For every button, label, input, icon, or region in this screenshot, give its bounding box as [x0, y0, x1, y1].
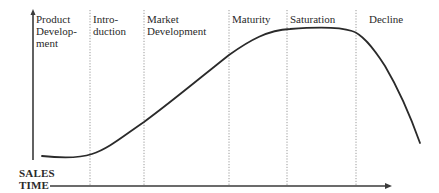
stage-label-saturation: Saturation	[290, 13, 335, 25]
stage-label-decline: Decline	[369, 13, 403, 25]
x-axis-arrow-icon	[385, 183, 392, 189]
sales-curve	[42, 28, 420, 158]
y-axis-arrow-icon	[31, 9, 36, 15]
stage-label-introduction: Intro- duction	[93, 13, 126, 37]
y-axis-label: SALES	[19, 167, 55, 179]
stage-label-product-development: Product Develop- ment	[36, 13, 77, 49]
x-axis-label: TIME	[19, 179, 49, 191]
stage-label-market-development: Market Development	[147, 13, 206, 37]
stage-dividers	[90, 10, 356, 186]
stage-label-maturity: Maturity	[232, 13, 271, 25]
